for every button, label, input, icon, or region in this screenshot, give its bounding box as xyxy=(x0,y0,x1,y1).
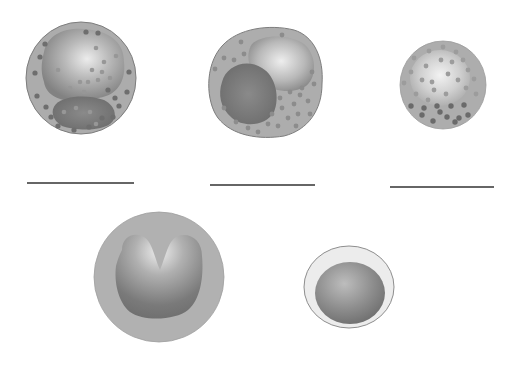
label-lines xyxy=(27,183,494,187)
cell-4 xyxy=(94,212,224,342)
blood-cell-diagram xyxy=(0,0,506,366)
cell-2 xyxy=(209,27,323,137)
cell-5 xyxy=(304,246,394,328)
cell-3 xyxy=(400,41,486,129)
cell-5-nucleus xyxy=(315,262,385,324)
cell-1-nucleus-upper xyxy=(42,29,125,101)
cell-1 xyxy=(26,22,136,134)
